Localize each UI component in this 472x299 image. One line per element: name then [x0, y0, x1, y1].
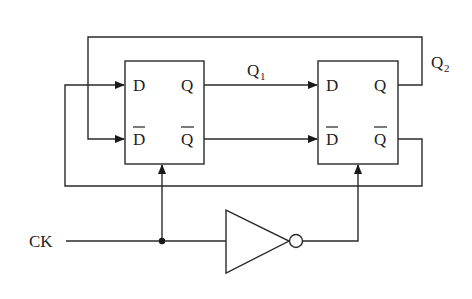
inverted-clock-wire	[302, 165, 358, 241]
circuit-diagram: D Q D Q D Q D Q Q 1 Q 2 CK	[0, 0, 472, 299]
ff2-qbar-label: Q	[374, 130, 386, 149]
clock-label: CK	[29, 232, 53, 251]
flip-flop-2: D Q D Q	[318, 61, 398, 164]
ff2-d-label: D	[326, 76, 338, 95]
flip-flop-1: D Q D Q	[125, 61, 204, 164]
q2-signal-label: Q 2	[431, 53, 450, 74]
q1-signal-label: Q 1	[247, 61, 266, 82]
ff1-q-label: Q	[181, 76, 193, 95]
svg-text:2: 2	[444, 62, 450, 74]
inverter-gate	[226, 210, 303, 273]
ff1-dbar-label: D	[133, 130, 145, 149]
ff2-q-label: Q	[374, 76, 386, 95]
ff1-d-label: D	[133, 76, 145, 95]
svg-text:Q: Q	[247, 61, 259, 80]
junction-dot	[159, 238, 165, 244]
svg-text:1: 1	[260, 70, 266, 82]
ff2-dbar-label: D	[326, 130, 338, 149]
inverter-bubble	[290, 235, 303, 248]
ff1-qbar-label: Q	[181, 130, 193, 149]
clock-wire	[66, 165, 226, 244]
svg-text:Q: Q	[431, 53, 443, 72]
